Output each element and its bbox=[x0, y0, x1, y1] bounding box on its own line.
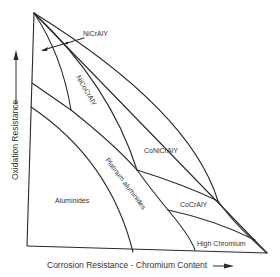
x-axis-label: Corrosion Resistance - Chromium Content bbox=[47, 260, 208, 270]
nicraly-arrowhead bbox=[41, 47, 48, 51]
region-label-platinum-aluminides: Platinum aluminides bbox=[104, 156, 148, 211]
region-label-high-chromium: High Chromium bbox=[197, 240, 246, 248]
y-axis-arrowhead-icon bbox=[14, 50, 19, 60]
coating-diagram: NiCrAlY NiCoCrAlY CoNiCrAlY Platinum alu… bbox=[0, 0, 280, 277]
y-axis-label: Oxidation Resistance bbox=[10, 99, 20, 180]
y-axis-line bbox=[27, 13, 34, 246]
region-label-aluminides: Aluminides bbox=[55, 197, 90, 204]
aluminides-boundary-curve bbox=[31, 107, 133, 252]
x-axis-arrowhead-icon bbox=[224, 264, 234, 269]
nicraly-pointer-dot bbox=[66, 42, 68, 44]
region-label-conicraly: CoNiCrAlY bbox=[144, 147, 178, 154]
region-label-nicraly: NiCrAlY bbox=[83, 30, 108, 37]
nicocraly-left-curve bbox=[34, 13, 71, 110]
x-axis-line bbox=[27, 246, 267, 253]
region-label-cocraly: CoCrAlY bbox=[180, 201, 208, 208]
region-label-nicocraly: NiCoCrAlY bbox=[75, 74, 98, 107]
high-chromium-upper-line bbox=[168, 210, 255, 240]
